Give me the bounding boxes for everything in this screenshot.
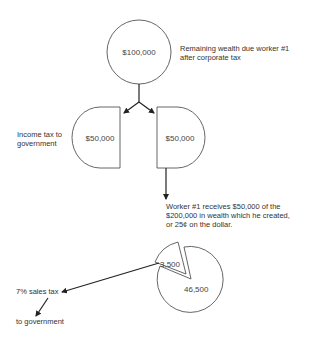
- sales-tax-arrow: [62, 263, 159, 292]
- sales-tax-label: 7% sales tax: [16, 287, 59, 296]
- pie-large-value: 46,500: [184, 285, 209, 294]
- top-node-value: $100,000: [122, 48, 156, 57]
- note-line: $200,000 in wealth which he created,: [166, 211, 290, 220]
- worker-note: Worker #1 receives $50,000 of the $200,0…: [166, 202, 290, 229]
- caption-line: government: [17, 139, 62, 148]
- note-line: Worker #1 receives $50,000 of the: [166, 202, 290, 211]
- to-government-label: to government: [16, 317, 64, 326]
- income-tax-caption: Income tax to government: [17, 130, 62, 148]
- caption-line: Remaining wealth due worker #1: [180, 44, 289, 53]
- note-line: or 25¢ on the dollar.: [166, 220, 290, 229]
- caption-line: Income tax to: [17, 130, 62, 139]
- right-node-value: $50,000: [166, 134, 195, 143]
- split-arrow: [124, 84, 154, 113]
- top-node-caption: Remaining wealth due worker #1 after cor…: [180, 44, 289, 62]
- to-government-arrow: [36, 298, 48, 316]
- pie-small-value: 3,500: [160, 260, 181, 269]
- caption-line: after corporate tax: [180, 53, 289, 62]
- left-node-value: $50,000: [86, 134, 115, 143]
